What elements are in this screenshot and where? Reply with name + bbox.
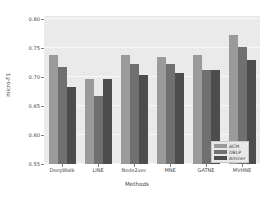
bar [166, 64, 175, 164]
legend-item: ACM [214, 144, 246, 149]
bar-chart-figure: 0.800.750.700.650.600.55 micro-F1 Method… [0, 0, 274, 201]
bar [130, 64, 139, 164]
bar [157, 57, 166, 164]
bar-group [80, 16, 116, 164]
x-axis-tick-mark [242, 164, 243, 167]
bar [85, 79, 94, 164]
x-axis-tick-mark [98, 164, 99, 167]
y-axis-tick-label: 0.60 [2, 132, 40, 138]
legend-label: DBLP [229, 150, 241, 155]
bar [202, 70, 211, 164]
bar [94, 96, 103, 164]
x-axis-tick-mark [62, 164, 63, 167]
x-axis-tick-mark [170, 164, 171, 167]
x-axis-tick-mark [134, 164, 135, 167]
y-axis-title: micro-F1 [5, 55, 11, 115]
y-axis-tick-label: 0.55 [2, 161, 40, 167]
bar-group [152, 16, 188, 164]
legend-item: Aminer [214, 156, 246, 161]
bar [49, 55, 58, 164]
y-axis-tick-label: 0.75 [2, 45, 40, 51]
x-axis-title: Methods [0, 181, 274, 187]
bar [121, 55, 130, 164]
y-axis-tick-mark [41, 164, 44, 165]
bar [103, 79, 112, 164]
legend-swatch [214, 150, 227, 154]
x-axis-tick-label: MVHNE [220, 167, 264, 173]
legend-item: DBLP [214, 150, 246, 155]
legend-swatch [214, 156, 227, 160]
bar [67, 87, 76, 164]
bar-group [116, 16, 152, 164]
bar [193, 55, 202, 164]
chart-legend: ACMDBLPAminer [211, 141, 249, 163]
legend-swatch [214, 144, 227, 148]
legend-label: ACM [229, 144, 239, 149]
x-axis-tick-mark [206, 164, 207, 167]
legend-label: Aminer [229, 156, 246, 161]
bar [58, 67, 67, 165]
bar-group [44, 16, 80, 164]
bar [139, 75, 148, 164]
bar [175, 73, 184, 164]
y-axis-tick-label: 0.80 [2, 16, 40, 22]
